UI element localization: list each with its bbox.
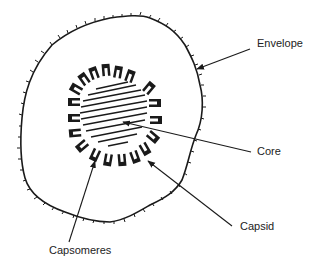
capsomere	[88, 66, 100, 80]
capsid-label: Capsid	[240, 220, 274, 232]
capsomere	[146, 130, 160, 144]
envelope-label: Envelope	[257, 37, 303, 49]
capsomere	[150, 116, 162, 124]
capsomere	[69, 83, 83, 96]
capsomere	[139, 142, 152, 156]
capsomere	[68, 114, 80, 122]
capsomere	[103, 153, 113, 166]
envelope-membrane	[17, 12, 206, 224]
core-nucleic-acid	[80, 82, 147, 146]
capsomere	[101, 64, 110, 77]
envelope-pointer	[197, 49, 250, 69]
capsomere	[129, 150, 141, 164]
capsomere	[113, 65, 123, 78]
capsomeres-label: Capsomeres	[49, 244, 111, 256]
capsomere	[149, 99, 161, 107]
capsomere	[142, 81, 156, 95]
capsomere	[89, 148, 101, 162]
capsomere	[77, 72, 90, 86]
pointer-lines	[69, 49, 251, 242]
capsomere	[124, 69, 136, 83]
capsomeres-pointer	[69, 161, 95, 242]
capsomere	[117, 154, 126, 167]
capsomere	[68, 98, 80, 106]
capsid-pointer	[148, 161, 232, 226]
capsomere	[75, 139, 89, 153]
capsid	[68, 64, 162, 167]
capsomere	[69, 128, 82, 137]
virus-diagram: Envelope Core Capsid Capsomeres	[0, 0, 309, 262]
core-label: Core	[257, 145, 281, 157]
